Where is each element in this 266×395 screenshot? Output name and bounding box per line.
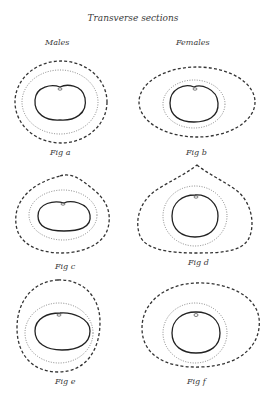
figure-e [17, 280, 100, 372]
sections-drawing [0, 0, 266, 395]
figure-label-a: Fig a [50, 148, 71, 157]
figure-f [142, 283, 259, 367]
figure-label-e: Fig e [55, 377, 76, 386]
figure-d [138, 165, 252, 253]
figure-label-f: Fig f [187, 377, 206, 386]
figure-a [15, 61, 107, 143]
figure-label-d: Fig d [188, 258, 209, 267]
figure-b [139, 67, 255, 137]
figure-c [16, 175, 109, 253]
figure-label-c: Fig c [55, 262, 75, 271]
figure-label-b: Fig b [186, 148, 207, 157]
